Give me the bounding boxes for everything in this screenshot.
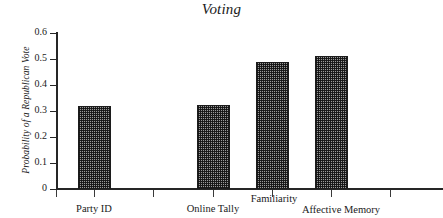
x-label-familiarity: Familiarity — [204, 193, 344, 204]
y-tick-1 — [50, 163, 57, 164]
y-tick-label-3: 0.3 — [0, 104, 47, 115]
y-tick-label-2: 0.2 — [0, 130, 47, 141]
x-tick-1 — [94, 190, 95, 197]
y-tick-label-1: 0.1 — [0, 156, 47, 167]
y-tick-6 — [50, 33, 57, 34]
x-tick-2 — [153, 190, 154, 197]
bar-online-tally — [197, 105, 230, 190]
y-tick-2 — [50, 137, 57, 138]
bar-familiarity — [256, 62, 289, 189]
y-tick-label-6: 0.6 — [0, 26, 47, 37]
bar-affective-memory — [315, 56, 348, 189]
x-tick-6 — [390, 190, 391, 197]
y-tick-5 — [50, 59, 57, 60]
y-tick-4 — [50, 85, 57, 86]
x-axis-line — [56, 188, 443, 190]
y-tick-3 — [50, 111, 57, 112]
y-tick-label-4: 0.4 — [0, 78, 47, 89]
x-label-affective-memory: Affective Memory — [271, 204, 411, 215]
x-label-online-tally: Online Tally — [143, 203, 283, 214]
y-tick-label-5: 0.5 — [0, 52, 47, 63]
x-tick-0 — [56, 190, 57, 197]
voting-bar-chart-figure: Voting Probability of a Republican Vote … — [0, 0, 443, 218]
bar-party-id — [78, 106, 111, 189]
y-tick-label-0: 0 — [0, 182, 47, 193]
plot-area: 0 0.1 0.2 0.3 0.4 0.5 0.6 Party ID Onlin… — [0, 0, 443, 218]
